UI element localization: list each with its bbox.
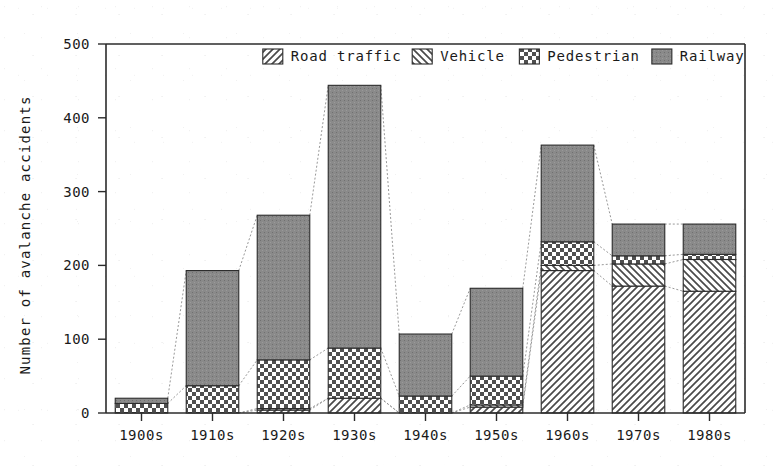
stack-connector bbox=[594, 242, 612, 256]
bar-group-1980s bbox=[683, 224, 736, 413]
stack-connector bbox=[523, 242, 541, 376]
bar-segment-1900s-railway bbox=[115, 398, 168, 403]
y-tick-label-200: 200 bbox=[63, 257, 90, 273]
bar-segment-1970s-road-traffic bbox=[612, 286, 665, 413]
stack-connector bbox=[381, 348, 399, 396]
stack-connector bbox=[594, 264, 612, 265]
y-tick-label-0: 0 bbox=[81, 405, 90, 421]
bar-group-1960s bbox=[541, 145, 594, 413]
y-tick-labels: 0100200300400500 bbox=[63, 36, 106, 421]
stack-connector bbox=[310, 85, 328, 215]
bar-segment-1960s-road-traffic bbox=[541, 271, 594, 413]
chart-figure: 0100200300400500 1900s1910s1920s1930s194… bbox=[0, 0, 780, 470]
bar-segment-1980s-vehicle bbox=[683, 259, 736, 291]
bar-segment-1970s-vehicle bbox=[612, 264, 665, 286]
stack-connector bbox=[310, 398, 328, 408]
bar-segment-1980s-pedestrian bbox=[683, 254, 736, 259]
x-tick-label-1940s: 1940s bbox=[403, 427, 448, 443]
road-traffic-swatch bbox=[263, 49, 283, 64]
bar-segment-1920s-pedestrian bbox=[257, 360, 310, 409]
legend-item-road-traffic[interactable]: Road traffic bbox=[263, 48, 402, 64]
stack-connector bbox=[452, 405, 470, 413]
x-tick-label-1960s: 1960s bbox=[545, 427, 590, 443]
bar-group-1940s bbox=[399, 334, 452, 413]
bar-segment-1930s-railway bbox=[328, 85, 381, 348]
legend-label-pedestrian: Pedestrian bbox=[547, 48, 639, 64]
legend-item-vehicle[interactable]: Vehicle bbox=[412, 48, 505, 64]
stack-connector bbox=[594, 145, 612, 224]
bar-group-1920s bbox=[257, 215, 310, 413]
stack-connector bbox=[594, 271, 612, 286]
stack-connector bbox=[665, 254, 683, 255]
x-tick-label-1900s: 1900s bbox=[119, 427, 164, 443]
bars-layer bbox=[115, 85, 736, 413]
stack-connector bbox=[239, 360, 257, 386]
bar-segment-1910s-pedestrian bbox=[186, 386, 239, 413]
stack-connector bbox=[239, 215, 257, 270]
y-tick-label-300: 300 bbox=[63, 184, 90, 200]
stack-connector bbox=[665, 259, 683, 263]
bar-group-1910s bbox=[186, 271, 239, 413]
bar-segment-1930s-pedestrian bbox=[328, 348, 381, 398]
x-tick-label-1920s: 1920s bbox=[261, 427, 306, 443]
y-tick-label-400: 400 bbox=[63, 110, 90, 126]
bar-segment-1980s-road-traffic bbox=[683, 291, 736, 413]
y-axis-label: Number of avalanche accidents bbox=[17, 95, 33, 374]
bar-segment-1970s-pedestrian bbox=[612, 256, 665, 264]
bar-segment-1930s-road-traffic bbox=[328, 398, 381, 413]
stack-connector bbox=[452, 407, 470, 413]
bar-segment-1940s-pedestrian bbox=[399, 396, 452, 413]
legend-label-railway: Railway bbox=[680, 48, 745, 64]
legend-item-railway[interactable]: Railway bbox=[652, 48, 745, 64]
stack-connector bbox=[523, 265, 541, 404]
bar-segment-1970s-railway bbox=[612, 224, 665, 256]
stack-connector bbox=[168, 386, 186, 404]
vehicle-swatch bbox=[412, 49, 432, 64]
stack-connector bbox=[523, 145, 541, 288]
y-tick-label-100: 100 bbox=[63, 331, 90, 347]
y-axis-label-text: Number of avalanche accidents bbox=[17, 95, 33, 374]
x-tick-label-1980s: 1980s bbox=[687, 427, 732, 443]
bar-group-1930s bbox=[328, 85, 381, 413]
stack-connector bbox=[381, 85, 399, 334]
x-tick-label-1910s: 1910s bbox=[190, 427, 235, 443]
bar-group-1970s bbox=[612, 224, 665, 413]
bar-segment-1960s-vehicle bbox=[541, 265, 594, 270]
x-tick-labels: 1900s1910s1920s1930s1940s1950s1960s1970s… bbox=[119, 413, 732, 443]
bar-segment-1940s-railway bbox=[399, 334, 452, 396]
railway-swatch bbox=[652, 49, 672, 64]
pedestrian-swatch bbox=[519, 49, 539, 64]
x-tick-label-1930s: 1930s bbox=[332, 427, 377, 443]
bar-segment-1980s-railway bbox=[683, 224, 736, 254]
legend-label-vehicle: Vehicle bbox=[440, 48, 505, 64]
chart-legend: Road trafficVehiclePedestrianRailway bbox=[263, 48, 745, 64]
stack-connector bbox=[168, 271, 186, 399]
bar-segment-1960s-railway bbox=[541, 145, 594, 242]
stack-connector bbox=[310, 348, 328, 360]
bar-segment-1900s-pedestrian bbox=[115, 403, 168, 413]
x-tick-label-1970s: 1970s bbox=[616, 427, 661, 443]
stack-connector bbox=[452, 376, 470, 396]
stack-connector bbox=[665, 286, 683, 291]
bar-group-1900s bbox=[115, 398, 168, 413]
bar-segment-1920s-railway bbox=[257, 215, 310, 360]
bar-group-1950s bbox=[470, 288, 523, 413]
bar-segment-1950s-road-traffic bbox=[470, 407, 523, 413]
legend-label-road-traffic: Road traffic bbox=[291, 48, 402, 64]
x-tick-label-1950s: 1950s bbox=[474, 427, 519, 443]
bar-segment-1910s-railway bbox=[186, 271, 239, 386]
bar-segment-1960s-pedestrian bbox=[541, 242, 594, 266]
avalanche-accidents-stacked-bar-chart: 0100200300400500 1900s1910s1920s1930s194… bbox=[0, 0, 780, 470]
bar-segment-1950s-pedestrian bbox=[470, 376, 523, 405]
bar-segment-1950s-railway bbox=[470, 288, 523, 376]
legend-item-pedestrian[interactable]: Pedestrian bbox=[519, 48, 639, 64]
stack-connector bbox=[381, 398, 399, 413]
stack-connector bbox=[523, 271, 541, 408]
stack-connector bbox=[452, 288, 470, 334]
y-tick-label-500: 500 bbox=[63, 36, 90, 52]
